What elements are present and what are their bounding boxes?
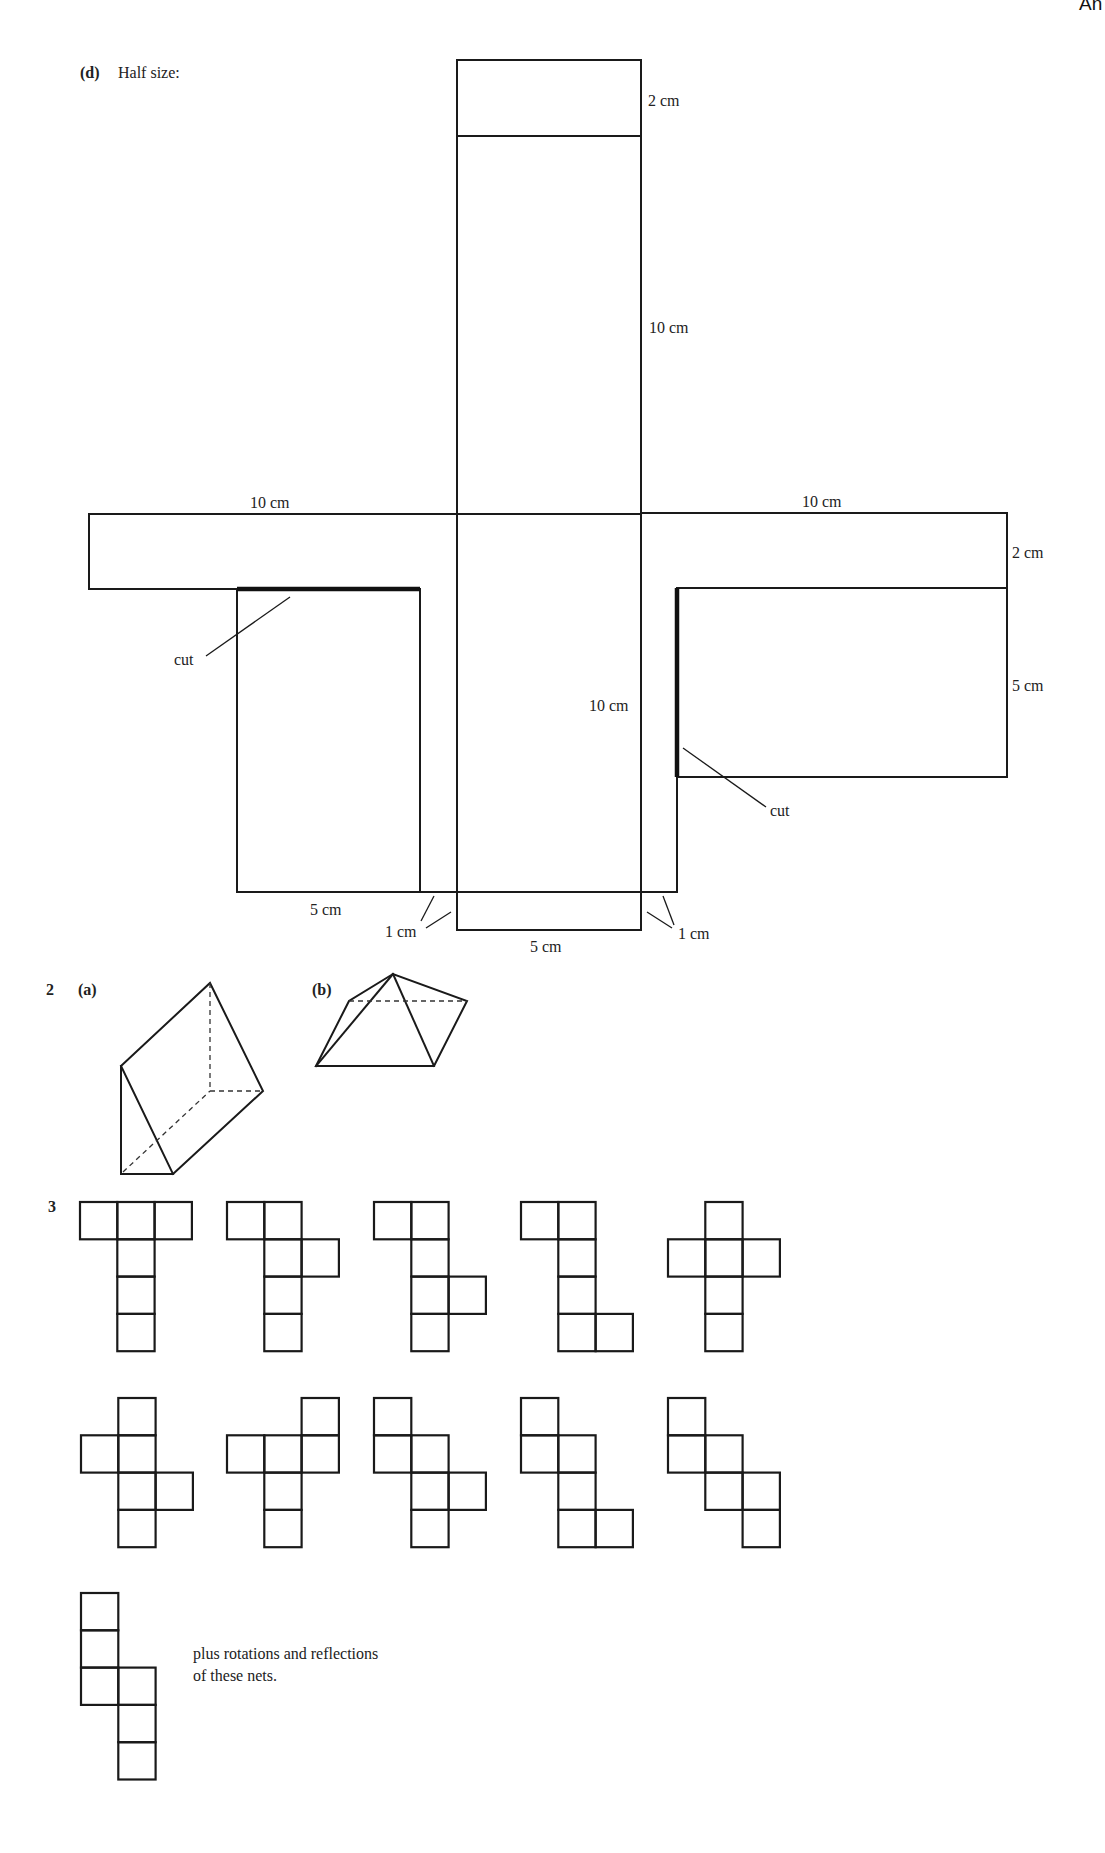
net-square xyxy=(302,1239,339,1276)
cube-net xyxy=(521,1202,633,1351)
cube-net xyxy=(80,1202,192,1351)
net-square xyxy=(558,1202,595,1239)
dimension-label: 10 cm xyxy=(802,493,842,510)
cut-leader-left xyxy=(206,597,290,656)
net-square xyxy=(668,1435,705,1472)
q2-part-a-label: (a) xyxy=(78,981,97,999)
net-square xyxy=(118,1473,155,1510)
net-square xyxy=(558,1314,595,1351)
net-square xyxy=(118,1398,155,1435)
net-square xyxy=(118,1742,155,1779)
net-square xyxy=(118,1510,155,1547)
dimension-label: 1 cm xyxy=(678,925,710,942)
net-square xyxy=(81,1668,118,1705)
dimension-label: cut xyxy=(770,802,790,819)
prism-front-edge xyxy=(121,1066,173,1174)
box-net-diagram xyxy=(89,60,1007,930)
net-square xyxy=(118,1435,155,1472)
net-square xyxy=(227,1435,264,1472)
net-square xyxy=(411,1314,448,1351)
net-square xyxy=(81,1630,118,1667)
net-square xyxy=(411,1239,448,1276)
net-square xyxy=(558,1510,595,1547)
right-flap xyxy=(677,588,1007,777)
net-square xyxy=(449,1473,486,1510)
net-square xyxy=(596,1510,633,1547)
figure-canvas: (d) Half size: 2 cm10 c xyxy=(0,0,1105,1853)
q3-note-line2: of these nets. xyxy=(193,1667,277,1684)
dim-leader-1cm-left-a xyxy=(421,896,434,921)
net-square xyxy=(743,1510,780,1547)
net-square xyxy=(668,1398,705,1435)
right-arm xyxy=(641,513,1007,588)
net-square xyxy=(80,1202,117,1239)
dim-leader-1cm-left-b xyxy=(426,912,451,928)
net-square xyxy=(155,1202,192,1239)
net-square xyxy=(705,1473,742,1510)
q2-number: 2 xyxy=(46,981,54,998)
triangular-prism-diagram xyxy=(121,983,263,1174)
net-square xyxy=(264,1510,301,1547)
net-square xyxy=(558,1435,595,1472)
left-arm xyxy=(89,514,457,589)
net-square xyxy=(374,1435,411,1472)
answer-page: An (d) Half size: xyxy=(0,0,1105,1853)
net-square xyxy=(411,1277,448,1314)
cube-net xyxy=(227,1202,339,1351)
cube-net xyxy=(668,1202,780,1351)
dimension-label: 2 cm xyxy=(1012,544,1044,561)
net-square xyxy=(81,1593,118,1630)
dimension-label: 5 cm xyxy=(310,901,342,918)
dimension-label: 5 cm xyxy=(1012,677,1044,694)
net-square xyxy=(264,1202,301,1239)
dimension-labels: 2 cm10 cm10 cm10 cm2 cm5 cm10 cmcutcut5 … xyxy=(174,92,1044,955)
net-square xyxy=(705,1239,742,1276)
net-square xyxy=(743,1239,780,1276)
dim-leader-1cm-right-b xyxy=(647,912,672,928)
net-square xyxy=(374,1398,411,1435)
cube-net xyxy=(81,1398,193,1547)
net-square xyxy=(521,1435,558,1472)
dimension-label: cut xyxy=(174,651,194,668)
pyramid-edge-right xyxy=(393,974,434,1066)
net-square xyxy=(264,1239,301,1276)
net-square xyxy=(705,1435,742,1472)
net-square xyxy=(117,1314,154,1351)
net-square xyxy=(668,1239,705,1276)
dim-leader-1cm-right-a xyxy=(663,896,674,925)
net-square xyxy=(227,1202,264,1239)
net-square xyxy=(521,1202,558,1239)
dimension-label: 1 cm xyxy=(385,923,417,940)
net-square xyxy=(374,1202,411,1239)
net-square xyxy=(117,1239,154,1276)
net-square xyxy=(521,1398,558,1435)
net-square xyxy=(81,1435,118,1472)
net-square xyxy=(705,1202,742,1239)
cube-net xyxy=(227,1398,339,1547)
cube-net xyxy=(374,1202,486,1351)
net-square xyxy=(264,1473,301,1510)
cube-net xyxy=(374,1398,486,1547)
dimension-label: 10 cm xyxy=(250,494,290,511)
q3-number: 3 xyxy=(48,1198,56,1215)
net-square xyxy=(302,1398,339,1435)
net-square xyxy=(411,1510,448,1547)
q2-part-b-label: (b) xyxy=(312,981,332,999)
net-square xyxy=(743,1473,780,1510)
net-square xyxy=(449,1277,486,1314)
net-square xyxy=(411,1435,448,1472)
cube-nets xyxy=(80,1202,780,1780)
net-square xyxy=(302,1435,339,1472)
net-square xyxy=(558,1239,595,1276)
cube-net xyxy=(81,1593,156,1780)
net-square xyxy=(596,1314,633,1351)
net-square xyxy=(705,1277,742,1314)
net-square xyxy=(264,1277,301,1314)
dimension-label: 10 cm xyxy=(589,697,629,714)
net-square xyxy=(558,1473,595,1510)
cube-net xyxy=(521,1398,633,1547)
net-square xyxy=(705,1314,742,1351)
net-square xyxy=(118,1705,155,1742)
center-strip xyxy=(457,60,641,930)
dimension-label: 2 cm xyxy=(648,92,680,109)
